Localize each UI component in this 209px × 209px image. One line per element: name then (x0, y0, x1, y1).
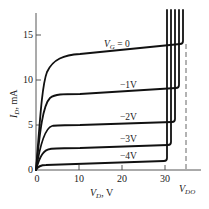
x-axis-title-unit: , V (101, 187, 114, 198)
vdo-label: VDO (179, 183, 195, 196)
jfet-characteristic-chart: 15 10 5 0 0 10 20 30 VD, V ID, mA VDO VG… (0, 0, 209, 209)
vdo-label-sub: DO (184, 188, 195, 196)
curve-label-m1: −1V (120, 80, 137, 90)
y-tick-label-15: 15 (23, 29, 33, 40)
y-tick-label-0: 0 (28, 164, 33, 175)
y-tick-label-5: 5 (28, 119, 33, 130)
curve-label-m4: −4V (120, 151, 137, 161)
x-tick-label-30: 30 (160, 173, 170, 184)
y-axis-title-unit: , mA (8, 89, 19, 110)
x-tick-label-10: 10 (74, 173, 84, 184)
curves (36, 10, 183, 170)
curve-label-m3: −3V (120, 134, 137, 144)
curve-label-vg-value: = 0 (115, 39, 130, 49)
x-tick-label-20: 20 (117, 173, 127, 184)
x-axis-title: VD, V (90, 187, 114, 200)
x-tick-label-0: 0 (35, 173, 40, 184)
y-axis-title: ID, mA (8, 89, 21, 119)
curve-label-m2: −2V (120, 112, 137, 122)
y-tick-label-10: 10 (23, 74, 33, 85)
